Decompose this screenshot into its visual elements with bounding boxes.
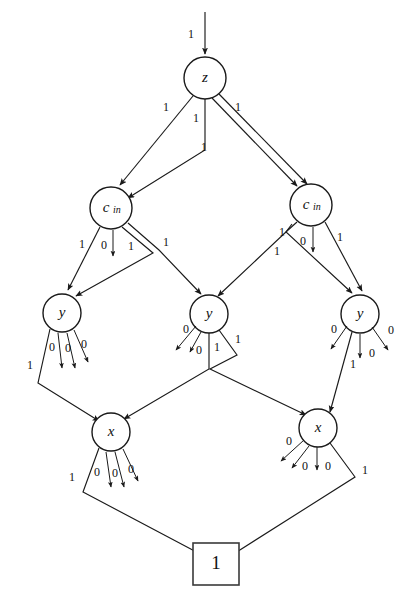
edge-label-ymid-0: 0 <box>183 322 189 336</box>
edge-yright-sink-1: 0 <box>360 334 375 360</box>
bdd-canvas: 1 z 1 1 1 1 c in 1 0 1 1 <box>0 0 419 600</box>
edge-xleft-sink-1: 0 <box>112 452 124 487</box>
edge-label-yright-2: 0 <box>369 346 375 360</box>
edge-z-to-cin-right-b: 1 <box>219 94 307 184</box>
bdd-diagram: 1 z 1 1 1 1 c in 1 0 1 1 <box>0 0 419 600</box>
edge-z-to-cin-left-a: 1 <box>120 96 193 185</box>
edge-xright-sink-1: 0 <box>292 446 309 473</box>
edge-label-ymid-2: 1 <box>214 340 220 354</box>
edge-label-xright-2: 0 <box>325 459 331 473</box>
edge-yright-sink-2: 0 <box>372 323 394 350</box>
node-cin-right-circle[interactable] <box>290 184 332 226</box>
node-cin-right-sublabel: in <box>313 201 321 212</box>
edge-label-xright-1: 0 <box>302 459 308 473</box>
node-cin-left-label: c <box>103 199 110 215</box>
edge-cinright-to-ymid: 1 <box>218 222 297 296</box>
edge-cinright-sink-0: 0 <box>300 227 313 252</box>
edge-label-yright-0: 0 <box>331 322 337 336</box>
node-x-left-label: x <box>107 423 115 439</box>
edge-label-yleft-3: 0 <box>81 337 87 351</box>
edge-yleft-to-xleft: 1 <box>27 329 99 421</box>
edge-label-cinleft-3: 1 <box>163 235 169 249</box>
node-x-right-label: x <box>314 419 322 435</box>
edge-label-xleft-1: 0 <box>94 465 100 479</box>
edge-label-yleft-2: 0 <box>65 341 71 355</box>
edge-xleft-sink-2: 0 <box>123 449 138 481</box>
edge-cinleft-to-ymid: 1 <box>128 223 201 294</box>
edge-z-to-cin-left-b: 1 <box>128 99 205 198</box>
edge-label-yleft-0: 1 <box>27 358 33 372</box>
edge-label-yleft-1: 0 <box>49 340 55 354</box>
node-cin-right-label: c <box>303 196 310 212</box>
edge-label-cinright-2: 0 <box>300 234 306 248</box>
edge-ymid-to-xright: 1 <box>210 330 306 415</box>
edge-label-root-input: 1 <box>188 27 194 41</box>
node-y-mid-label: y <box>204 305 213 321</box>
edge-label-cinleft-1: 0 <box>101 238 107 252</box>
edge-yleft-sink-1: 0 <box>65 333 75 368</box>
node-cin-right[interactable]: c in <box>290 184 332 226</box>
edge-z-to-cin-right-a: 1 <box>201 98 297 186</box>
node-cin-left-sublabel: in <box>113 204 121 215</box>
edge-yleft-sink-2: 0 <box>74 330 88 362</box>
edge-label-ymid-3: 1 <box>235 332 241 346</box>
edge-xleft-sink-0: 0 <box>94 452 111 487</box>
edge-label-cinleft-0: 1 <box>79 237 85 251</box>
edge-cinright-to-yright-b: 1 <box>325 222 362 291</box>
edge-ymid-to-xleft: 1 <box>124 333 220 419</box>
edge-label-xright-3: 1 <box>362 463 368 477</box>
node-cin-left-circle[interactable] <box>90 187 132 229</box>
node-y-mid[interactable]: y <box>190 295 228 333</box>
node-x-right[interactable]: x <box>299 409 337 447</box>
edge-cinleft-to-yleft-b: 1 <box>76 227 153 296</box>
edge-xright-to-terminal: 1 <box>232 443 368 555</box>
node-x-left[interactable]: x <box>92 413 130 451</box>
edge-ymid-sink-1: 0 <box>190 332 202 357</box>
edge-label-ymid-1: 0 <box>196 343 202 357</box>
edge-label-xright-0: 0 <box>286 434 292 448</box>
edge-yleft-sink-0: 0 <box>49 333 62 368</box>
edge-label-cinright-1: 1 <box>274 244 280 258</box>
edge-xleft-to-terminal: 1 <box>69 448 204 556</box>
node-y-right-label: y <box>355 305 364 321</box>
node-y-left-label: y <box>57 304 66 320</box>
edge-label-cinleft-2: 1 <box>128 239 134 253</box>
edge-label-xleft-3: 0 <box>128 462 134 476</box>
edge-label-xleft-2: 0 <box>112 466 118 480</box>
root-input-edge: 1 <box>188 12 205 54</box>
edge-label-xleft-0: 1 <box>69 470 75 484</box>
edge-label-z-2: 1 <box>201 140 207 154</box>
edge-cinleft-sink-0: 0 <box>101 230 113 256</box>
edge-label-cinright-0: 1 <box>279 225 285 239</box>
node-y-left[interactable]: y <box>43 294 81 332</box>
edge-label-yright-1: 1 <box>350 357 356 371</box>
edge-cinleft-to-yleft-a: 1 <box>68 227 100 290</box>
node-z[interactable]: z <box>184 57 226 99</box>
edge-label-z-3: 1 <box>235 100 241 114</box>
terminal-label: 1 <box>211 552 221 573</box>
terminal-node-1[interactable]: 1 <box>193 543 239 585</box>
edge-xright-sink-2: 0 <box>317 447 331 473</box>
node-cin-left[interactable]: c in <box>90 187 132 229</box>
edge-label-z-0: 1 <box>163 100 169 114</box>
edge-label-z-1: 1 <box>193 111 199 125</box>
edge-label-yright-3: 0 <box>388 323 394 337</box>
node-z-label: z <box>201 69 208 85</box>
edge-label-cinright-3: 1 <box>337 230 343 244</box>
